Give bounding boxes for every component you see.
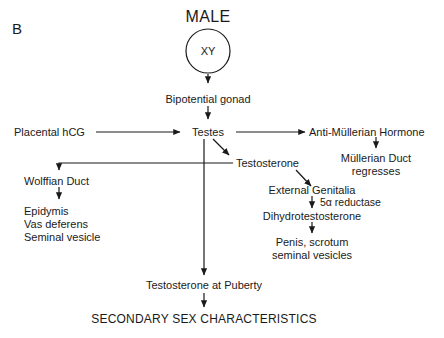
node-bipotential-gonad: Bipotential gonad (165, 93, 250, 106)
label-5alpha-reductase: 5α reductase (320, 196, 381, 209)
node-anti-mullerian-hormone: Anti-Müllerian Hormone (309, 126, 425, 139)
male-sex-differentiation-flowchart: B MALE XY Bipotential gonad Placental hC… (0, 0, 444, 338)
node-wolffian-duct: Wolffian Duct (24, 175, 89, 188)
node-mullerian-duct-regresses: Müllerian Duct regresses (341, 152, 411, 178)
node-testosterone-at-puberty: Testosterone at Puberty (146, 279, 262, 292)
edge-testosterone-to-wolffian (59, 163, 233, 170)
figure-title: MALE (185, 10, 230, 23)
edge-testes-to-testosterone (213, 139, 229, 155)
node-secondary-sex-characteristics: SECONDARY SEX CHARACTERISTICS (91, 313, 316, 326)
karyotype-label: XY (201, 45, 216, 58)
node-wolffian-derivatives: Epidymis Vas deferens Seminal vesicle (24, 205, 100, 244)
node-dht-targets: Penis, scrotum seminal vesicles (272, 236, 352, 262)
node-dihydrotestosterone: Dihydrotestosterone (263, 210, 361, 223)
panel-label: B (12, 20, 22, 37)
node-testosterone: Testosterone (236, 157, 299, 170)
node-testes: Testes (192, 126, 224, 139)
node-placental-hcg: Placental hCG (14, 126, 85, 139)
